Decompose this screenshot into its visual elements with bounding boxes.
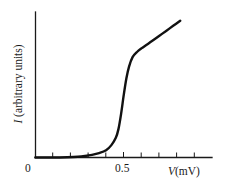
x-axis-label: V(mV) xyxy=(168,165,200,177)
x-axis-label-symbol: V xyxy=(168,165,175,177)
x-tick-label-0: 0 xyxy=(25,163,31,175)
iv-characteristic-curve xyxy=(36,21,181,158)
y-axis-label-units: (arbitrary units) xyxy=(12,44,24,117)
chart-plot-area xyxy=(0,0,230,185)
axis-group xyxy=(35,12,212,158)
x-tick-label-0-5: 0.5 xyxy=(115,163,129,175)
x-axis-label-units: (mV) xyxy=(175,165,200,177)
y-axis-label: I (arbitrary units) xyxy=(12,22,24,146)
chart-figure: 0 0.5 V(mV) I (arbitrary units) xyxy=(0,0,230,185)
y-axis-label-symbol: I xyxy=(12,120,24,124)
